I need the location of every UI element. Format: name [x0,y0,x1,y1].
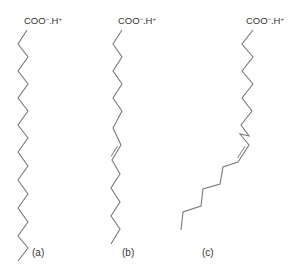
carboxylate-head-c: COO–.H+ [246,15,284,26]
fatty-acid-structures-diagram: COO–.H+ (a) COO–.H+ (b) COO–.H+ (c) [0,0,298,267]
molecule-c: COO–.H+ (c) [181,15,284,258]
carbon-chain-a [18,30,28,261]
carbon-chain-b [111,30,122,244]
carboxylate-head-a: COO–.H+ [24,15,62,26]
double-bond-line [111,146,117,157]
carboxylate-head-b: COO–.H+ [118,15,156,26]
label-c: (c) [202,247,214,258]
molecule-b: COO–.H+ (b) [111,15,156,258]
label-b: (b) [122,247,134,258]
molecule-a: COO–.H+ (a) [18,15,62,261]
carbon-chain-c [181,30,253,230]
label-a: (a) [32,247,44,258]
double-bonds-b [111,146,117,157]
